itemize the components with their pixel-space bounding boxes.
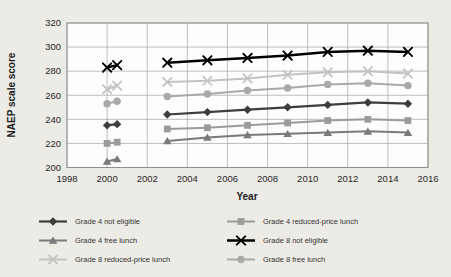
legend-marker-square-icon bbox=[226, 216, 256, 227]
x-tick-label: 2002 bbox=[137, 173, 158, 184]
x-tick-label: 2016 bbox=[417, 173, 438, 184]
legend-label: Grade 4 not eligible bbox=[75, 217, 140, 226]
legend-item-grade-8-not-eligible: Grade 8 not eligible bbox=[226, 235, 358, 246]
x-tick-label: 1998 bbox=[56, 173, 77, 184]
marker-circle bbox=[113, 98, 120, 105]
marker-circle bbox=[364, 80, 371, 87]
marker-square bbox=[324, 117, 331, 124]
x-tick-label: 2014 bbox=[377, 173, 398, 184]
marker-circle bbox=[103, 100, 110, 107]
y-tick-label: 240 bbox=[45, 114, 61, 125]
marker-circle bbox=[204, 90, 211, 97]
legend-item-grade-4-not-eligible: Grade 4 not eligible bbox=[38, 216, 226, 227]
y-tick-label: 220 bbox=[45, 138, 61, 149]
x-tick-label: 2010 bbox=[297, 173, 318, 184]
legend-label: Grade 4 free lunch bbox=[75, 236, 137, 245]
marker-square bbox=[405, 117, 412, 124]
legend-marker-diamond-icon bbox=[38, 216, 68, 227]
marker-circle bbox=[244, 87, 251, 94]
marker-diamond bbox=[49, 217, 57, 225]
marker-square bbox=[104, 140, 111, 147]
legend: Grade 4 not eligibleGrade 4 reduced-pric… bbox=[38, 216, 358, 265]
marker-circle bbox=[284, 84, 291, 91]
legend-marker-x-icon bbox=[226, 235, 256, 246]
marker-square bbox=[284, 120, 291, 127]
legend-label: Grade 8 not eligible bbox=[263, 236, 328, 245]
marker-square bbox=[204, 124, 211, 131]
marker-square bbox=[364, 116, 371, 123]
y-tick-label: 300 bbox=[45, 41, 61, 52]
x-tick-label: 2004 bbox=[177, 173, 198, 184]
legend-label: Grade 4 reduced-price lunch bbox=[263, 217, 358, 226]
marker-square bbox=[164, 126, 171, 133]
chart-plot: 2002202402602803003201998200020022004200… bbox=[0, 0, 451, 207]
legend-marker-circle-icon bbox=[226, 254, 256, 265]
x-axis-title: Year bbox=[236, 191, 257, 202]
marker-circle bbox=[324, 81, 331, 88]
marker-circle bbox=[404, 82, 411, 89]
legend-marker-triangle-icon bbox=[38, 235, 68, 246]
x-tick-label: 2000 bbox=[97, 173, 118, 184]
legend-item-grade-4-reduced-price-lunch: Grade 4 reduced-price lunch bbox=[226, 216, 358, 227]
legend-marker-x-icon bbox=[38, 254, 68, 265]
legend-item-grade-8-reduced-price-lunch: Grade 8 reduced-price lunch bbox=[38, 254, 226, 265]
marker-square bbox=[244, 122, 251, 129]
marker-circle bbox=[164, 93, 171, 100]
marker-square bbox=[238, 218, 245, 225]
y-tick-label: 320 bbox=[45, 17, 61, 28]
x-tick-label: 2012 bbox=[337, 173, 358, 184]
y-tick-label: 260 bbox=[45, 90, 61, 101]
legend-label: Grade 8 reduced-price lunch bbox=[75, 255, 170, 264]
legend-item-grade-8-free-lunch: Grade 8 free lunch bbox=[226, 254, 358, 265]
x-tick-label: 2006 bbox=[217, 173, 238, 184]
x-tick-label: 2008 bbox=[257, 173, 278, 184]
legend-item-grade-4-free-lunch: Grade 4 free lunch bbox=[38, 235, 226, 246]
y-tick-label: 280 bbox=[45, 65, 61, 76]
legend-label: Grade 8 free lunch bbox=[263, 255, 325, 264]
marker-circle bbox=[237, 256, 244, 263]
y-tick-label: 200 bbox=[45, 162, 61, 173]
y-axis-title: NAEP scale score bbox=[6, 52, 17, 137]
page: 2002202402602803003201998200020022004200… bbox=[0, 0, 451, 277]
marker-square bbox=[114, 139, 121, 146]
plot-area: 2002202402602803003201998200020022004200… bbox=[45, 17, 438, 183]
